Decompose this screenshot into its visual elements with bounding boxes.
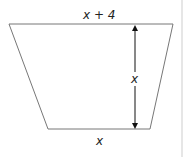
bottom-base-label: x — [96, 134, 103, 148]
trapezoid-drawing — [0, 0, 183, 157]
height-label: x — [131, 72, 138, 86]
right-border — [181, 0, 183, 157]
trapezoid-shape — [9, 24, 173, 129]
top-base-label: x + 4 — [83, 8, 115, 22]
trapezoid-figure: x + 4 x x — [0, 0, 183, 157]
